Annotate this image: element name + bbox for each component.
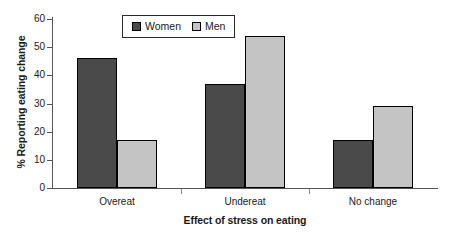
- men-swatch-icon: [192, 22, 201, 31]
- plot-area: [53, 19, 437, 188]
- y-tick-mark: [47, 188, 52, 189]
- y-tick-mark: [47, 75, 52, 76]
- women-swatch-icon: [132, 22, 141, 31]
- x-axis-line: [52, 188, 438, 189]
- bar-overeat-women: [77, 58, 117, 188]
- x-category-label: Undereat: [181, 196, 309, 207]
- legend-item-men: Men: [192, 21, 225, 32]
- y-tick-mark: [47, 160, 52, 161]
- y-tick-mark: [47, 19, 52, 20]
- bar-overeat-men: [117, 140, 157, 188]
- x-separator-tick: [181, 189, 182, 194]
- chart-legend: Women Men: [122, 15, 235, 38]
- bar-undereat-men: [245, 36, 285, 188]
- bar-chart-figure: % Reporting eating change 0102030405060 …: [0, 0, 456, 238]
- y-tick-mark: [47, 132, 52, 133]
- x-category-label: No change: [309, 196, 437, 207]
- bar-no-change-men: [373, 106, 413, 188]
- y-tick-label: 20: [17, 127, 45, 137]
- y-tick-mark: [47, 104, 52, 105]
- legend-item-women: Women: [132, 21, 181, 32]
- x-category-label: Overeat: [53, 196, 181, 207]
- y-tick-label: 30: [17, 99, 45, 109]
- y-tick-mark: [47, 47, 52, 48]
- bar-undereat-women: [205, 84, 245, 188]
- bar-no-change-women: [333, 140, 373, 188]
- y-tick-label: 40: [17, 70, 45, 80]
- y-tick-label: 0: [17, 183, 45, 193]
- x-axis-title: Effect of stress on eating: [53, 214, 437, 226]
- x-separator-tick: [309, 189, 310, 194]
- y-tick-label: 50: [17, 42, 45, 52]
- legend-label-women: Women: [145, 21, 181, 32]
- legend-label-men: Men: [205, 21, 225, 32]
- y-tick-label: 10: [17, 155, 45, 165]
- y-tick-label: 60: [17, 14, 45, 24]
